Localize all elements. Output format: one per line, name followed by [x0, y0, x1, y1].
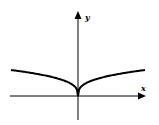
x-axis-arrow-icon — [138, 93, 146, 100]
y-axis-arrow-icon — [75, 11, 82, 19]
chart-canvas: y x — [0, 0, 159, 125]
x-axis-label: x — [140, 83, 146, 93]
y-axis-label: y — [84, 12, 91, 22]
